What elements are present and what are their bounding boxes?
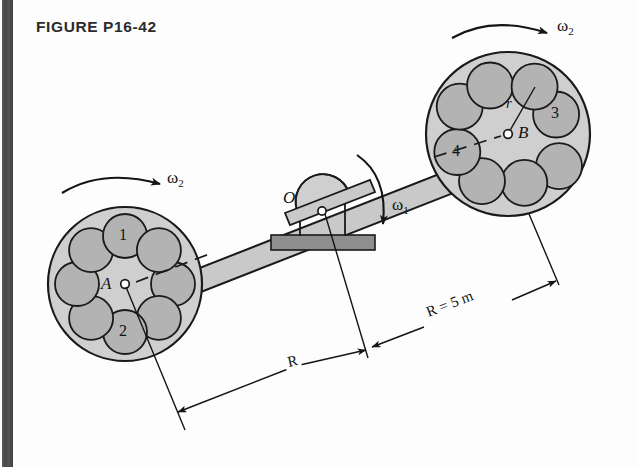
point-a-label: A bbox=[101, 274, 111, 294]
point-a-marker bbox=[121, 280, 130, 289]
hole-label-2: 2 bbox=[119, 322, 127, 340]
dimension-label-left: R bbox=[283, 351, 302, 371]
point-b-marker bbox=[504, 130, 513, 139]
pivot-point-o bbox=[318, 207, 326, 215]
omega2-left-arrow bbox=[62, 178, 160, 193]
mechanism-diagram bbox=[0, 0, 638, 467]
right-disk bbox=[426, 52, 590, 216]
left-disk bbox=[48, 207, 212, 361]
radius-r-label: r bbox=[506, 95, 512, 112]
omega2-right-label: ω2 bbox=[557, 16, 574, 37]
dimension-line-left bbox=[178, 350, 366, 412]
omega2-right-arrow bbox=[452, 25, 547, 38]
hole-label-3: 3 bbox=[551, 104, 559, 122]
hole-label-1: 1 bbox=[119, 226, 127, 244]
point-o-label: O bbox=[283, 188, 295, 208]
point-b-label: B bbox=[518, 123, 528, 143]
omega2-left-label: ω2 bbox=[167, 168, 184, 189]
figure-page: FIGURE P16-42 bbox=[0, 0, 638, 467]
omega1-label: ω1 bbox=[392, 195, 409, 216]
hole-label-4: 4 bbox=[452, 142, 460, 160]
